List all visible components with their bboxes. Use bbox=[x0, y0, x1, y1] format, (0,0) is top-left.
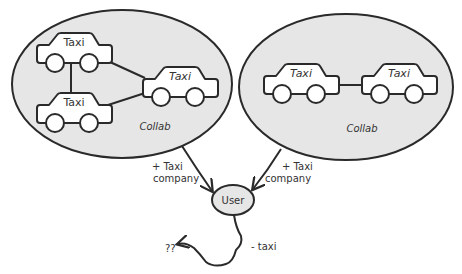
edge-wavy-arrow bbox=[178, 215, 241, 266]
user-node: User bbox=[212, 185, 254, 215]
edge-arrow-left bbox=[182, 146, 212, 191]
edge-label-left-line1: + Taxi bbox=[152, 161, 183, 172]
taxi-label: Taxi bbox=[290, 67, 312, 80]
unknown-target-label: ?? bbox=[165, 243, 176, 254]
taxi-label: Taxi bbox=[62, 96, 84, 109]
edge-label-right-line1: + Taxi bbox=[282, 161, 313, 172]
edge-label-right-line2: company bbox=[265, 173, 311, 184]
diagram-canvas: Taxi Taxi Taxi Collab Taxi Taxi Collab +… bbox=[0, 0, 462, 274]
user-label: User bbox=[222, 195, 246, 206]
collab-label: Collab bbox=[139, 121, 170, 132]
edge-label-left-line2: company bbox=[153, 173, 199, 184]
collab-group-left: Taxi Taxi Taxi Collab bbox=[12, 10, 232, 158]
collab-label: Collab bbox=[346, 123, 377, 134]
collab-group-right: Taxi Taxi Collab bbox=[239, 14, 453, 160]
taxi-label: Taxi bbox=[388, 67, 410, 80]
taxi-label: Taxi bbox=[169, 70, 191, 83]
edge-label-minus-taxi: - taxi bbox=[251, 241, 277, 252]
taxi-label: Taxi bbox=[62, 36, 84, 49]
